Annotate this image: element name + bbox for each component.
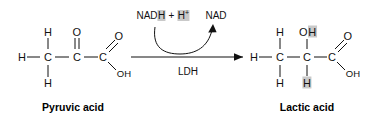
pyruvate-h-top: H <box>44 27 52 38</box>
lactate-oh: OH <box>346 69 361 79</box>
lactate-c3: C <box>328 52 336 63</box>
cofactor-proton: H+ <box>177 10 189 21</box>
lactate-hydroxyl-o: O <box>299 26 308 38</box>
pyruvate-o-double: O <box>73 27 82 38</box>
lactate-c2: C <box>303 52 311 63</box>
pyruvate-o-carbonyl: O <box>115 31 124 42</box>
reaction-diagram: H C H H C O C O OH NADH + H+ NAD LDH H C… <box>0 0 374 128</box>
lactate-h-top: H <box>276 27 284 38</box>
cofactor-nadh-text: NAD <box>136 10 157 21</box>
pyruvate-oh: OH <box>117 69 132 79</box>
lactate-h-bottom: H <box>276 78 284 89</box>
lactate-h-transferred: H <box>302 78 311 89</box>
reactant-caption: Pyruvic acid <box>42 102 104 113</box>
lactate-o-carbonyl: O <box>344 31 353 42</box>
pyruvate-c1: C <box>44 52 52 63</box>
lactate-hydroxyl-h: H <box>308 26 317 38</box>
lactate-c1: C <box>276 52 284 63</box>
cofactor-nadh-label: NADH + H+ <box>136 11 189 21</box>
pyruvate-c2: C <box>73 52 81 63</box>
pyruvate-h-left: H <box>18 52 26 63</box>
pyruvate-c3: C <box>99 52 107 63</box>
lactate-hydroxyl-top: OH <box>299 27 317 38</box>
enzyme-label: LDH <box>178 67 198 77</box>
cofactor-nad-label: NAD <box>205 11 226 21</box>
lactate-h-left: H <box>250 52 258 63</box>
product-caption: Lactic acid <box>280 102 334 113</box>
pyruvate-h-bottom: H <box>44 78 52 89</box>
cofactor-nadh-hydrogen: H <box>158 10 166 21</box>
